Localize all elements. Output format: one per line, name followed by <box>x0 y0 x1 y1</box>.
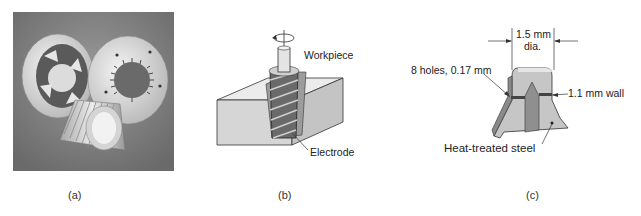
rotation-arrow-icon <box>272 30 294 46</box>
label-diameter-unit: dia. <box>524 40 541 52</box>
panel-a: (a) <box>0 0 200 216</box>
label-diameter-value: 1.5 mm <box>516 28 551 40</box>
panel-b: Workpiece Electrode (b) <box>200 0 400 216</box>
edm-electrode-diagram <box>200 0 400 216</box>
label-wall: 1.1 mm wall <box>568 87 624 99</box>
caption-a: (a) <box>68 189 81 201</box>
label-workpiece: Workpiece <box>304 49 353 61</box>
label-material: Heat-treated steel <box>444 142 535 154</box>
label-holes: 8 holes, 0.17 mm <box>411 64 492 76</box>
panel-c: 1.5 mm dia. 8 holes, 0.17 mm 1.1 mm wall… <box>400 0 641 216</box>
label-electrode: Electrode <box>310 146 354 158</box>
caption-c: (c) <box>526 189 539 201</box>
photo-extruded-parts <box>0 0 200 216</box>
caption-b: (b) <box>278 189 291 201</box>
